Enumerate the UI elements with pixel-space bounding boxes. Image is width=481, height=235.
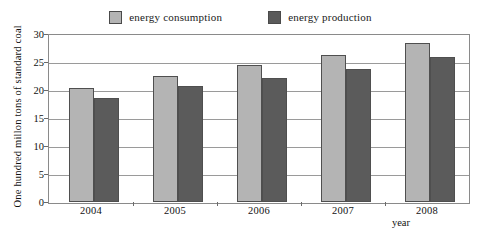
bar-group [49,35,133,202]
y-axis-tick-label: 20 [22,85,44,96]
bar-chart: energy consumption energy production One… [0,0,481,235]
legend-swatch-consumption-icon [109,11,122,24]
x-axis-title: year [392,217,410,228]
y-axis-tick-label: 15 [22,113,44,124]
legend-swatch-production-icon [268,11,281,24]
x-axis-tick-label: 2004 [80,205,102,216]
y-axis-tick-labels: 051015202530 [20,34,44,202]
y-axis-tick-label: 0 [22,197,44,208]
bar-production [94,98,119,202]
bar-production [178,86,203,202]
chart-legend: energy consumption energy production [0,6,481,28]
x-axis-tick-label: 2008 [416,205,438,216]
bar-group [385,35,469,202]
x-axis-tick-label: 2006 [248,205,270,216]
bar-group [301,35,385,202]
y-axis-tick-label: 25 [22,57,44,68]
legend-entry-consumption: energy consumption [109,11,222,24]
bar-consumption [153,76,178,202]
y-axis-tick-label: 10 [22,141,44,152]
x-axis-tick-label: 2007 [332,205,354,216]
bar-group [217,35,301,202]
legend-label-consumption: energy consumption [129,11,222,23]
bar-production [346,69,371,202]
legend-entry-production: energy production [268,11,372,24]
y-axis-tick-label: 30 [22,29,44,40]
y-axis-tick-label: 5 [22,169,44,180]
bar-consumption [237,65,262,202]
bar-consumption [321,55,346,202]
bar-production [262,78,287,202]
bar-group [133,35,217,202]
bar-production [430,57,455,202]
legend-label-production: energy production [288,11,372,23]
bar-series-container [49,35,467,202]
bar-consumption [69,88,94,202]
x-axis-tick-label: 2005 [164,205,186,216]
bar-consumption [405,43,430,202]
